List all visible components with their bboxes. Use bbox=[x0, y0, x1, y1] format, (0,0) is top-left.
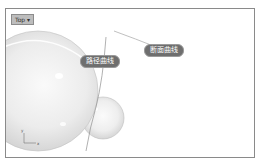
section-curve-label: 断面曲线 bbox=[144, 44, 184, 57]
scene-canvas[interactable]: y x bbox=[6, 9, 254, 157]
viewport-title-tab[interactable]: Top ▾ bbox=[11, 14, 34, 25]
large-sphere[interactable] bbox=[6, 31, 98, 151]
viewport-top[interactable]: Top ▾ bbox=[5, 8, 255, 158]
path-curve-label: 路径曲线 bbox=[80, 55, 120, 68]
